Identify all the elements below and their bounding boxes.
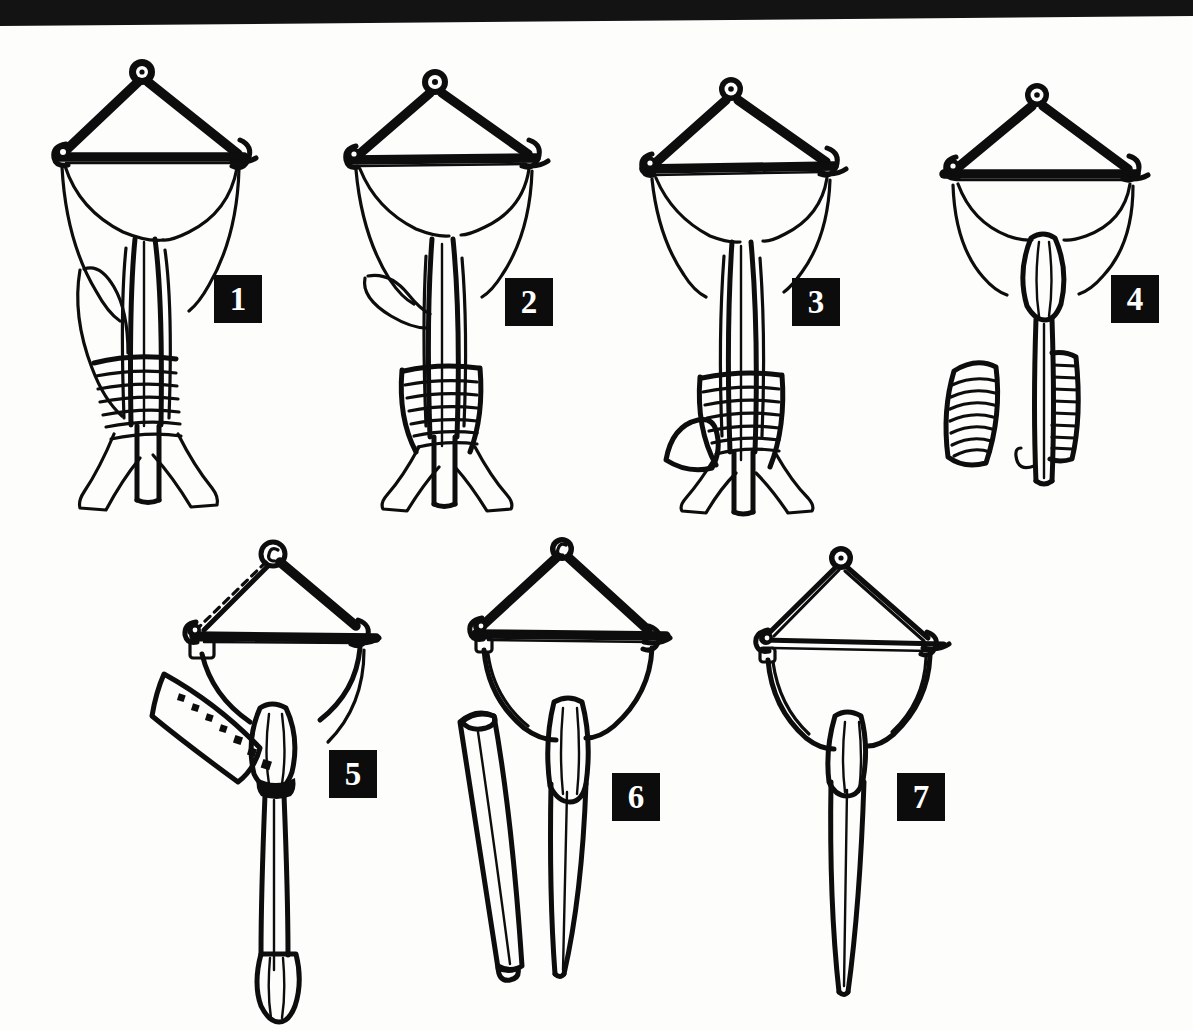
left-strut-dashed bbox=[198, 562, 266, 628]
cross-bar bbox=[194, 636, 376, 638]
funnel-outer-left bbox=[652, 179, 706, 297]
left-strut bbox=[768, 568, 835, 634]
detached-tube bbox=[460, 713, 522, 980]
right-strut bbox=[569, 558, 648, 630]
figure-6-number: 6 bbox=[613, 774, 659, 820]
fork-left bbox=[80, 434, 141, 510]
detached-banded-sheath bbox=[946, 363, 998, 465]
funnel-outer-left bbox=[62, 167, 120, 321]
left-strut bbox=[652, 100, 726, 166]
cross-bar bbox=[644, 166, 834, 169]
fork-left bbox=[382, 447, 439, 511]
funnel-outer-left bbox=[953, 185, 1007, 295]
long-shaft-right bbox=[284, 795, 288, 955]
figure-3-number: 3 bbox=[793, 279, 839, 325]
fork-right bbox=[153, 434, 217, 507]
club-tip bbox=[257, 954, 299, 1022]
figure-2[interactable]: 2 bbox=[320, 26, 620, 516]
long-shaft-left bbox=[261, 795, 265, 955]
funnel-membrane-right bbox=[461, 169, 529, 235]
side-blade bbox=[365, 278, 429, 328]
left-strut bbox=[482, 558, 556, 626]
funnel-membrane-left bbox=[360, 169, 449, 236]
fork-left bbox=[681, 456, 736, 513]
right-strut bbox=[148, 82, 238, 154]
bow-membrane-right bbox=[586, 648, 652, 738]
scan-edge-bar bbox=[0, 0, 1193, 26]
figure-5-number: 5 bbox=[330, 751, 376, 797]
figure-2-number: 2 bbox=[506, 279, 552, 325]
right-strut bbox=[442, 93, 528, 154]
right-strut bbox=[848, 568, 928, 638]
tapered-shaft-left bbox=[831, 782, 839, 992]
plate-canvas: 1 bbox=[0, 26, 1193, 1030]
funnel-membrane-right bbox=[163, 168, 237, 240]
left-lower-arm bbox=[202, 654, 250, 722]
figure-6[interactable]: 6 bbox=[440, 526, 740, 1026]
figure-4[interactable]: 4 bbox=[902, 26, 1193, 516]
collar bbox=[257, 778, 296, 799]
left-strut bbox=[956, 106, 1032, 169]
figure-1-number: 1 bbox=[215, 276, 261, 322]
illustration-page: 1 bbox=[0, 0, 1193, 1030]
right-strut bbox=[738, 100, 826, 162]
funnel-membrane-left bbox=[958, 184, 1032, 240]
fork-right bbox=[455, 447, 512, 511]
figure-4-number: 4 bbox=[1112, 276, 1158, 322]
tapered-shaft-right bbox=[848, 782, 864, 992]
bow-membrane-left bbox=[768, 660, 834, 749]
figure-3[interactable]: 3 bbox=[608, 26, 908, 516]
central-shaft-left bbox=[728, 242, 732, 452]
right-strut bbox=[1043, 106, 1128, 169]
figure-5[interactable]: 5 bbox=[150, 530, 450, 1030]
left-horn-clasp-icon bbox=[756, 630, 775, 662]
spindle-body bbox=[828, 712, 866, 796]
spindle-body bbox=[548, 698, 589, 802]
fork-right bbox=[756, 454, 813, 513]
figure-7[interactable]: 7 bbox=[728, 526, 1028, 1026]
central-shaft-right bbox=[751, 242, 756, 452]
figure-7-artwork bbox=[756, 546, 949, 995]
plain-shaft-left bbox=[1035, 319, 1037, 481]
funnel-membrane-left bbox=[656, 178, 740, 242]
figure-6-artwork bbox=[460, 537, 670, 980]
funnel-membrane-right bbox=[763, 178, 827, 241]
cross-bar bbox=[762, 640, 944, 644]
funnel-membrane-left bbox=[65, 166, 163, 240]
cross-bar bbox=[476, 634, 666, 636]
figure-1[interactable]: 1 bbox=[18, 26, 318, 516]
figure-7-number: 7 bbox=[898, 774, 944, 820]
funnel-membrane-right bbox=[1064, 184, 1130, 240]
hook-tip bbox=[1016, 448, 1034, 468]
left-strut bbox=[62, 82, 138, 154]
cross-bar bbox=[350, 158, 536, 160]
right-strut bbox=[280, 562, 356, 626]
bow-membrane-right bbox=[868, 656, 930, 746]
tapered-shaft-left bbox=[551, 784, 556, 974]
left-strut bbox=[356, 93, 430, 157]
spindle-body bbox=[1023, 234, 1064, 320]
right-lower-arm bbox=[320, 648, 360, 720]
